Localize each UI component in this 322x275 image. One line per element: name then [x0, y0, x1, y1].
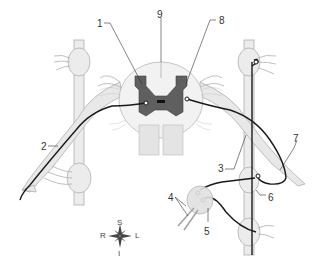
label-2: 2 [41, 142, 47, 152]
compass-inferior-label: I [118, 250, 120, 258]
label-5: 5 [204, 227, 210, 237]
compass-left-label: L [135, 232, 139, 240]
label-6: 6 [268, 193, 274, 203]
label-1: 1 [97, 19, 103, 29]
label-8: 8 [219, 16, 225, 26]
compass-right-label: R [100, 232, 106, 240]
label-9: 9 [157, 10, 163, 20]
spinal-cord-diagram [0, 0, 322, 275]
label-7: 7 [293, 134, 299, 144]
compass-superior-label: S [117, 219, 122, 227]
label-3: 3 [218, 164, 224, 174]
spinal-cord [100, 62, 222, 155]
label-4: 4 [168, 193, 174, 203]
compass-rose [108, 224, 132, 248]
